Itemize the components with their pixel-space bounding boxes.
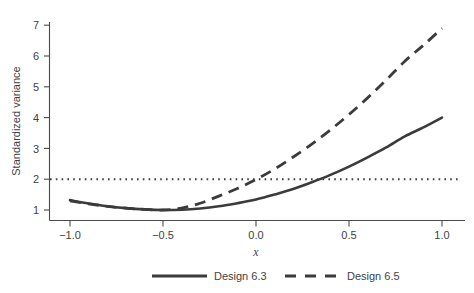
y-tick-label-5: 5 (33, 81, 39, 93)
y-tick-label-2: 2 (33, 173, 39, 185)
y-tick-label-6: 6 (33, 50, 39, 62)
x-tick-label-neg0p5: −0.5 (152, 229, 174, 241)
y-tick-label-3: 3 (33, 143, 39, 155)
legend-label-design-6-3: Design 6.3 (214, 270, 267, 282)
series-design-6-3 (70, 118, 442, 210)
y-tick-label-4: 4 (33, 112, 39, 124)
x-tick-label-0p5: 0.5 (341, 229, 356, 241)
y-tick-label-7: 7 (33, 19, 39, 31)
x-axis-title: x (252, 245, 259, 259)
legend-label-design-6-5: Design 6.5 (347, 270, 400, 282)
x-tick-label-0: 0.0 (248, 229, 263, 241)
x-axis: −1.0 −0.5 0.0 0.5 1.0 (50, 221, 466, 242)
y-tick-label-1: 1 (33, 204, 39, 216)
chart-figure: 7 6 5 4 3 2 1 −1.0 −0.5 0.0 0.5 1.0 Stan… (0, 0, 474, 293)
x-tick-label-1: 1.0 (434, 229, 449, 241)
y-axis: 7 6 5 4 3 2 1 (33, 19, 50, 220)
x-tick-label-neg1: −1.0 (59, 229, 81, 241)
y-axis-title: Standardized variance (10, 66, 22, 175)
series-design-6-5 (70, 28, 442, 210)
chart-legend: Design 6.3 Design 6.5 (152, 270, 400, 282)
chart-canvas: 7 6 5 4 3 2 1 −1.0 −0.5 0.0 0.5 1.0 Stan… (0, 0, 474, 293)
